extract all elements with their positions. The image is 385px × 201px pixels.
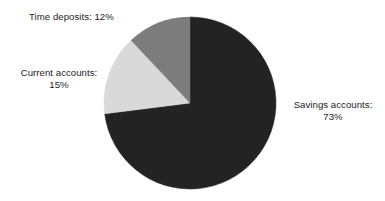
pie-label-savings-accounts: Savings accounts: 73%: [281, 99, 385, 123]
pie-label-time-deposits: Time deposits: 12%: [29, 11, 114, 23]
pie-label-current-accounts: Current accounts: 15%: [8, 67, 110, 91]
pie-chart-figure: Time deposits: 12% Current accounts: 15%…: [0, 0, 385, 201]
